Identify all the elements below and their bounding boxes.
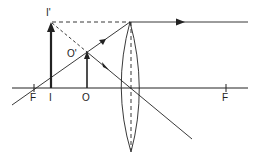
label-image-base: I	[49, 92, 52, 103]
converging-lens	[121, 22, 139, 152]
ray-diagram: I' O' F I O F	[0, 0, 257, 162]
ray-direction-arrow-icon	[99, 39, 106, 45]
label-focal-left: F	[30, 92, 36, 103]
ray-direction-arrow-icon	[176, 19, 185, 26]
label-object-tip: O'	[67, 48, 77, 59]
label-focal-right: F	[222, 92, 228, 103]
image-arrow-head-icon	[47, 22, 55, 32]
label-object-base: O	[82, 92, 90, 103]
label-image-tip: I'	[46, 7, 51, 18]
ray-direction-arrow-icon	[102, 62, 109, 70]
